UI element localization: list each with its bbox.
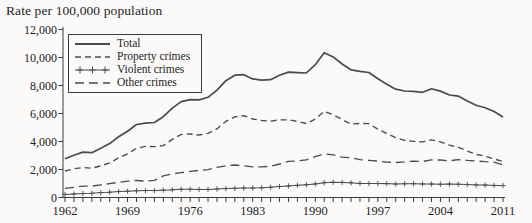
x-tick-label: 1983	[240, 204, 265, 218]
crime-rate-figure: Rate per 100,000 population 02,0004,0006…	[0, 0, 532, 223]
legend-line-sample-icon	[74, 78, 111, 88]
y-tick-label: 12,000	[24, 23, 57, 37]
x-tick-label: 2011	[491, 204, 516, 218]
series-line-violent-crimes	[65, 182, 503, 194]
y-tick-label: 6,000	[30, 107, 57, 121]
legend: TotalProperty crimesViolent crimesOther …	[68, 34, 202, 93]
legend-item-violent-crimes: Violent crimes	[74, 64, 199, 76]
x-tick-label: 1962	[53, 204, 78, 218]
y-tick-label: 2,000	[30, 163, 57, 177]
y-tick-label: 4,000	[30, 135, 57, 149]
y-tick-label: 8,000	[30, 79, 57, 93]
legend-line-sample-icon	[74, 39, 111, 49]
x-tick-label: 1990	[303, 204, 328, 218]
legend-item-total: Total	[74, 38, 199, 50]
x-tick-label: 2004	[428, 204, 454, 218]
series-line-property-crimes	[65, 111, 503, 171]
legend-item-label: Other crimes	[117, 77, 177, 89]
x-tick-label: 1997	[365, 204, 390, 218]
legend-item-other-crimes: Other crimes	[74, 77, 199, 89]
legend-item-label: Violent crimes	[117, 64, 184, 76]
legend-item-property-crimes: Property crimes	[74, 51, 199, 63]
legend-item-label: Total	[117, 38, 140, 50]
x-tick-label: 1969	[115, 204, 140, 218]
y-tick-label: 10,000	[24, 51, 57, 65]
legend-line-sample-icon	[74, 65, 111, 75]
series-line-other-crimes	[65, 154, 503, 189]
legend-item-label: Property crimes	[117, 51, 190, 63]
x-tick-label: 1976	[178, 204, 203, 218]
legend-line-sample-icon	[74, 52, 111, 62]
